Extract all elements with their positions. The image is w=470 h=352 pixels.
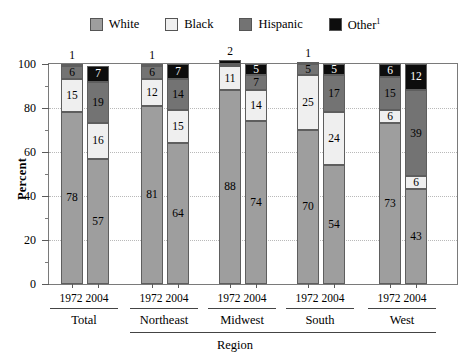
stacked-bar[interactable]: 78156 — [61, 64, 83, 284]
bar-segment-black[interactable]: 15 — [167, 110, 189, 143]
bar-segment-value-outside: 2 — [219, 46, 241, 58]
bar-segment-value: 17 — [328, 88, 340, 100]
bar-segment-value: 15 — [384, 88, 396, 100]
bar-segment-value: 5 — [305, 64, 311, 75]
legend-swatch-icon — [329, 18, 342, 31]
group-rule — [368, 308, 436, 309]
bar-segment-hispanic[interactable]: 14 — [167, 79, 189, 110]
bar-segment-hispanic[interactable]: 5 — [297, 64, 319, 75]
stacked-bar[interactable]: 4363912 — [405, 64, 427, 284]
x-axis-tick — [308, 284, 309, 288]
bar-segment-value: 6 — [387, 65, 393, 77]
legend-entry-black: Black — [165, 18, 213, 31]
bar-segment-white[interactable]: 73 — [379, 123, 401, 284]
bar-segment-value: 5 — [331, 64, 337, 75]
bar-segment-value: 64 — [172, 208, 184, 220]
bar-segment-black[interactable]: 12 — [141, 79, 163, 105]
bar-segment-other[interactable] — [297, 62, 319, 64]
bar-segment-black[interactable]: 6 — [405, 176, 427, 189]
stacked-bar[interactable]: 5424175 — [323, 64, 345, 284]
bar-segment-value: 43 — [410, 231, 422, 243]
x-axis-group-label: South — [286, 314, 354, 327]
stacked-bar[interactable]: 741475 — [245, 64, 267, 284]
bar-segment-value: 73 — [384, 198, 396, 210]
bar-segment-value: 15 — [66, 90, 78, 102]
stacked-bar[interactable]: 81126 — [141, 64, 163, 284]
bar-segment-white[interactable]: 74 — [245, 121, 267, 284]
bar-segment-value: 25 — [302, 97, 314, 109]
y-axis-minor-tick — [45, 130, 49, 131]
bar-segment-white[interactable]: 88 — [219, 90, 241, 284]
bar-segment-value-outside: 1 — [61, 50, 83, 62]
stacked-bar[interactable]: 736156 — [379, 64, 401, 284]
bar-segment-hispanic[interactable]: 7 — [245, 75, 267, 90]
x-axis-tick — [178, 284, 179, 288]
bar-segment-black[interactable]: 25 — [297, 75, 319, 130]
stacked-bar[interactable]: 6415147 — [167, 64, 189, 284]
bar-segment-white[interactable]: 43 — [405, 189, 427, 284]
y-axis-tick — [42, 108, 49, 109]
x-axis-tick — [72, 284, 73, 288]
bar-segment-value: 11 — [224, 73, 235, 85]
bar-segment-value: 54 — [328, 219, 340, 231]
x-axis-tick — [152, 284, 153, 288]
x-axis-tick — [98, 284, 99, 288]
group-rule — [50, 308, 118, 309]
bar-segment-white[interactable]: 78 — [61, 112, 83, 284]
x-axis-group-label: Midwest — [208, 314, 276, 327]
bar-segment-other[interactable]: 5 — [323, 64, 345, 75]
bar-segment-black[interactable]: 11 — [219, 66, 241, 90]
bar-segment-white[interactable]: 64 — [167, 143, 189, 284]
bar-segment-white[interactable]: 70 — [297, 130, 319, 284]
bar-segment-hispanic[interactable]: 39 — [405, 90, 427, 176]
bar-segment-other[interactable]: 6 — [379, 64, 401, 77]
bar-segment-value: 6 — [387, 111, 393, 123]
bar-segment-other[interactable] — [61, 64, 83, 66]
x-axis-group-label: Northeast — [130, 314, 198, 327]
bar-segment-white[interactable]: 54 — [323, 165, 345, 284]
bar-segment-other[interactable]: 12 — [405, 64, 427, 90]
legend-label: Hispanic — [258, 18, 302, 31]
x-axis-tick — [230, 284, 231, 288]
bar-segment-value: 7 — [253, 77, 259, 89]
bar-segment-other[interactable] — [141, 64, 163, 66]
bar-segment-white[interactable]: 57 — [87, 159, 109, 284]
bar-segment-value: 16 — [92, 135, 104, 147]
y-axis-tick — [42, 152, 49, 153]
bar-segment-hispanic[interactable]: 15 — [379, 77, 401, 110]
bar-segment-white[interactable]: 81 — [141, 106, 163, 284]
legend-entry-white: White — [90, 18, 140, 31]
bar-segment-black[interactable]: 14 — [245, 90, 267, 121]
bar-segment-hispanic[interactable]: 19 — [87, 82, 109, 124]
bar-segment-hispanic[interactable]: 6 — [61, 66, 83, 79]
bar-segment-black[interactable]: 6 — [379, 110, 401, 123]
bar-segment-hispanic[interactable]: 17 — [323, 75, 345, 112]
bar-segment-value-outside: 1 — [297, 48, 319, 60]
bar-segment-black[interactable]: 15 — [61, 79, 83, 112]
x-axis-group-label: Total — [50, 314, 118, 327]
plot-area: 020406080100Percent178156571619718112664… — [48, 63, 458, 285]
bar-segment-other[interactable] — [219, 60, 241, 64]
bar-segment-black[interactable]: 16 — [87, 123, 109, 158]
stacked-bar[interactable]: 8811 — [219, 64, 241, 284]
legend-label: Black — [184, 18, 213, 31]
chart-figure: WhiteBlackHispanicOther1 020406080100Per… — [0, 0, 470, 352]
stacked-bar[interactable]: 70255 — [297, 64, 319, 284]
bar-segment-value: 6 — [149, 67, 155, 79]
y-axis-minor-tick — [45, 262, 49, 263]
bar-segment-value: 5 — [253, 64, 259, 75]
bar-segment-value: 14 — [250, 100, 262, 112]
legend-swatch-icon — [165, 18, 178, 31]
bar-segment-value: 88 — [224, 181, 236, 193]
bar-segment-black[interactable]: 24 — [323, 112, 345, 165]
x-axis-year-label: 2004 — [395, 293, 435, 305]
bar-segment-other[interactable]: 7 — [87, 66, 109, 81]
bar-segment-other[interactable]: 5 — [245, 64, 267, 75]
legend-label: White — [109, 18, 140, 31]
x-axis-year-label: 2004 — [77, 293, 117, 305]
bar-segment-hispanic[interactable]: 6 — [141, 66, 163, 79]
bar-segment-other[interactable]: 7 — [167, 64, 189, 79]
bar-segment-hispanic[interactable] — [219, 64, 241, 66]
y-axis-minor-tick — [45, 218, 49, 219]
stacked-bar[interactable]: 5716197 — [87, 64, 109, 284]
